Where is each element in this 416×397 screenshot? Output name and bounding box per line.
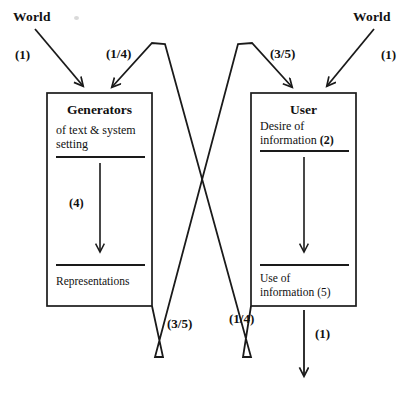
generators-box-subtitle-line2: setting bbox=[56, 138, 88, 151]
world-label-right: World bbox=[353, 9, 391, 24]
user-box-subtitle-line2-text: information bbox=[260, 133, 320, 147]
user-desire-step-number: (2) bbox=[320, 133, 334, 147]
flow-label-top-left-in: (1) bbox=[15, 48, 30, 63]
diagram-canvas bbox=[0, 0, 416, 397]
user-box-title: User bbox=[251, 102, 356, 117]
flow-label-bottom-left-cross: (3/5) bbox=[167, 317, 192, 332]
generators-box-footer: Representations bbox=[56, 275, 129, 288]
world-label-left: World bbox=[13, 9, 51, 24]
user-box-subtitle-line2: information (2) bbox=[260, 134, 334, 147]
top-left-world-arrow bbox=[35, 29, 83, 86]
flow-label-top-right-cross: (3/5) bbox=[270, 47, 295, 62]
generators-box-title: Generators bbox=[47, 102, 152, 117]
flow-diagram-figure: World World (1) (1/4) (3/5) (1) (3/5) (1… bbox=[0, 0, 416, 397]
flow-label-top-right-in: (1) bbox=[381, 48, 396, 63]
flow-label-top-left-cross: (1/4) bbox=[106, 47, 131, 62]
flow-label-bottom-right-out: (1) bbox=[315, 327, 330, 342]
scan-speck bbox=[74, 16, 79, 20]
flow-label-bottom-right-cross: (1/4) bbox=[229, 312, 254, 327]
user-box-footer-line1: Use of bbox=[260, 272, 290, 285]
top-right-world-arrow bbox=[327, 29, 374, 86]
generators-internal-arrow-label: (4) bbox=[69, 196, 84, 210]
generators-box-subtitle-line1: of text & system bbox=[56, 124, 136, 137]
user-box-footer-line2: information (5) bbox=[260, 286, 331, 299]
user-box-subtitle-line1: Desire of bbox=[260, 120, 304, 133]
